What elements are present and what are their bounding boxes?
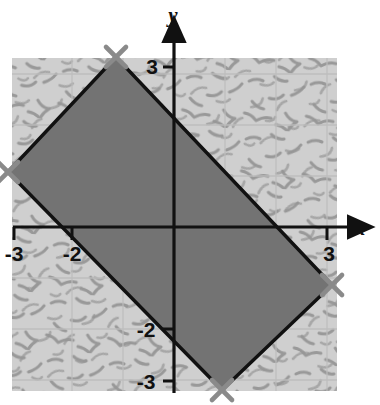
x-axis-label: x [354, 216, 366, 240]
y-axis-label: y [165, 3, 178, 27]
tick-label-x-pos3: 3 [323, 242, 335, 265]
tick-label-y-neg2: -2 [137, 318, 156, 341]
tick-label-y-pos3: 3 [146, 55, 158, 78]
tick-label-x-neg2: -2 [63, 242, 82, 265]
coordinate-plane-figure: x y -3 -2 3 3 -2 -3 [0, 0, 380, 405]
tick-label-y-neg3: -3 [137, 370, 156, 393]
tick-label-x-neg3: -3 [5, 242, 24, 265]
graph-canvas: x y -3 -2 3 3 -2 -3 [0, 0, 380, 405]
